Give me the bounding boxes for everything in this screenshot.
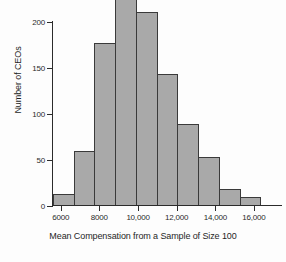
y-axis-tick [47,68,53,69]
x-axis-tick [177,206,178,211]
x-axis-tick-label: 6000 [52,213,69,222]
y-axis-tick-label: 0 [41,202,45,211]
x-axis-tick-label: 16,000 [242,213,265,222]
x-axis-tick [99,206,100,211]
histogram-bar [157,74,179,206]
y-axis-tick [47,160,53,161]
x-axis-tick-label: 10,000 [126,213,149,222]
x-axis-tick-label: 14,000 [204,213,227,222]
x-axis-line [53,205,282,206]
histogram-bar [219,189,241,206]
x-axis-title: Mean Compensation from a Sample of Size … [0,231,286,241]
x-axis-tick-label: 8000 [91,213,108,222]
histogram-figure: 050100150200 6000800010,00012,00014,0001… [0,0,286,262]
x-axis-tick [215,206,216,211]
histogram-bar [177,124,199,206]
plot-area [53,6,281,206]
y-axis-tick-label: 150 [32,64,45,73]
y-axis-tick [47,206,53,207]
y-axis-tick [47,22,53,23]
histogram-bar [136,12,158,206]
histogram-bar [94,43,116,206]
y-axis-tick-label: 200 [32,18,45,27]
x-axis-tick-label: 12,000 [165,213,188,222]
y-axis-tick-label: 100 [32,110,45,119]
x-axis-tick [138,206,139,211]
x-axis-tick [254,206,255,211]
x-axis-tick [61,206,62,211]
histogram-bars [53,6,281,206]
histogram-bar [74,151,96,206]
y-axis-tick-label: 50 [37,156,46,165]
y-axis-tick [47,114,53,115]
histogram-bar [115,0,137,206]
y-axis-title: Number of CEOs [13,20,23,140]
histogram-bar [198,157,220,206]
